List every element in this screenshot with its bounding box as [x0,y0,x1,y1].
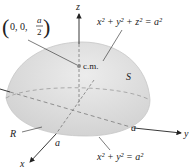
circle-equation: x² + y² = a² [96,151,144,162]
radius-y-label: a [131,122,136,133]
hemisphere-diagram: c.m. z x y S R a a ( 0, 0, a 2 ) x² + y²… [0,0,194,167]
point-fraction-numerator: a [37,15,42,25]
point-fraction-denominator: 2 [37,27,42,37]
radius-x-label: a [55,137,60,148]
point-open-paren: ( [2,14,9,39]
center-of-mass-label: c.m. [83,61,99,71]
x-axis [30,134,56,162]
point-close-paren: ) [43,14,50,39]
x-axis-label: x [19,158,25,167]
center-of-mass-dot [77,64,81,68]
sphere-equation: x² + y² + z² = a² [96,16,163,27]
surface-label: S [126,71,131,82]
point-prefix: 0, 0, [10,21,28,32]
region-label: R [9,128,16,139]
z-axis-label: z [75,1,80,12]
y-axis-label: y [183,128,189,139]
point-coordinates: ( 0, 0, a 2 ) [2,14,50,39]
y-axis [134,128,181,133]
hemisphere-surface [6,42,150,136]
circle-eq-leader [99,137,110,150]
